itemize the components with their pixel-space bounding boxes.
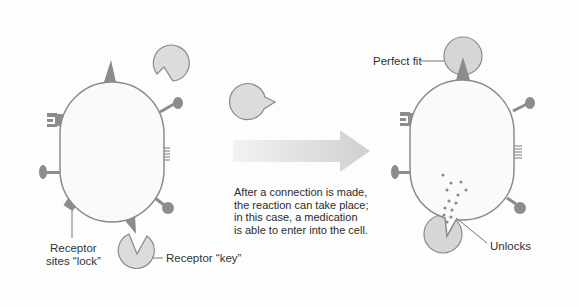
process-arrow: [233, 130, 370, 172]
receptor-lollipop-right-lower: [155, 198, 174, 214]
receptor-key-bottom: [118, 234, 154, 268]
caption-line-4: is able to enter into the cell.: [234, 224, 384, 237]
receptor-key-free-middle: [230, 84, 275, 120]
caption-line-2: the reaction can take place;: [234, 199, 384, 212]
lock-and-key-diagram: Receptor sites “lock” Receptor “key”: [0, 0, 579, 307]
receptor-spike-top: [104, 60, 116, 82]
receptor-key-free-top: [153, 45, 189, 81]
diagram-canvas: Receptor sites “lock” Receptor “key”: [0, 0, 579, 307]
receptor-comb-right-cell: [515, 146, 522, 158]
label-unlocks: Unlocks: [490, 240, 531, 252]
label-receptor-sites-line1: Receptor: [50, 242, 97, 254]
right-cell-group: [391, 37, 535, 253]
label-perfect-fit: Perfect fit: [373, 55, 422, 67]
cell-body-right: [410, 80, 514, 236]
receptor-lollipop-left: [39, 165, 62, 179]
receptor-key-right-upper: [160, 97, 183, 112]
caption-line-1: After a connection is made,: [234, 186, 384, 199]
caption-text: After a connection is made, the reaction…: [234, 186, 384, 236]
caption-line-3: in this case, a medication: [234, 211, 384, 224]
receptor-lollipop-right-cell-lower: [507, 198, 526, 214]
left-cell-group: [39, 60, 183, 234]
cell-body-left: [60, 82, 164, 222]
receptor-key-right-cell-upper: [513, 97, 535, 111]
label-receptor-sites-line2: sites “lock”: [46, 255, 101, 267]
label-receptor-key: Receptor “key”: [166, 252, 242, 264]
